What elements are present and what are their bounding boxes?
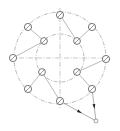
arrows	[60, 89, 96, 121]
outer-node-o-lower-left	[24, 85, 31, 92]
arrowhead-icon	[77, 110, 82, 114]
arrowhead-icon	[93, 104, 96, 109]
outer-node-o-lower-right	[88, 85, 95, 92]
outer-node-o-upper-left	[24, 23, 31, 30]
layout-diagram	[0, 0, 120, 131]
outer-node-o-top	[56, 11, 63, 18]
outer-node-o-bottom	[56, 97, 63, 104]
inner-node-i-lower-right	[74, 69, 81, 76]
connector-line	[13, 41, 44, 58]
outer-node-o-right	[102, 55, 109, 62]
inner-node-i-lower-left	[39, 69, 46, 76]
external-point-icon	[94, 119, 98, 123]
outer-node-o-upper-right	[88, 23, 95, 30]
axes	[10, 8, 110, 108]
connector-line	[42, 72, 60, 101]
outer-node-o-left	[9, 54, 16, 61]
inner-node-i-upper-left	[41, 38, 48, 45]
inner-node-i-upper-right	[74, 38, 81, 45]
connector-line	[60, 15, 77, 41]
connector-line	[77, 59, 106, 72]
external-point	[94, 119, 98, 123]
